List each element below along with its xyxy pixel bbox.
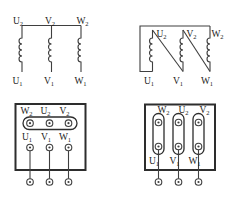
phase-coil-w	[78, 26, 81, 73]
label-u1: U1	[12, 76, 22, 87]
terminal-dot	[67, 146, 69, 148]
label-u1: U1	[144, 76, 154, 87]
label-w1: W1	[74, 76, 86, 87]
label-w2: W2	[211, 29, 223, 40]
label-w2: W2	[20, 106, 32, 117]
label-u2: U2	[156, 29, 166, 40]
phase-coil-v	[49, 26, 52, 73]
terminal-dot	[197, 145, 199, 147]
label-u1: U1	[22, 132, 32, 143]
label-v2: V2	[59, 106, 69, 117]
label-v1: V1	[44, 76, 54, 87]
winding-diagrams-svg: U2 V2 W2 U1 V1 W1 U2 V2 W2 U1 V1 W1	[0, 0, 234, 201]
label-v1: V1	[173, 76, 183, 87]
delta-connection-terminal-board: W2 U2 V2 U1 V1 W1	[145, 105, 215, 186]
terminal-dot	[177, 181, 179, 183]
label-w2: W2	[157, 105, 169, 116]
terminal-dot	[157, 145, 159, 147]
terminal-dot	[67, 122, 69, 124]
terminal-dot	[67, 181, 69, 183]
phase-coil-v	[180, 30, 183, 72]
terminal-dot	[48, 146, 50, 148]
label-w1: W1	[201, 76, 213, 87]
star-connection-terminal-board: W2 U2 V2 U1 V1 W1	[16, 104, 86, 185]
label-u2: U2	[13, 16, 23, 27]
terminal-dot	[29, 181, 31, 183]
terminal-dot	[157, 121, 159, 123]
terminal-dot	[177, 121, 179, 123]
terminal-dot	[197, 181, 199, 183]
label-u2: U2	[40, 106, 50, 117]
terminal-dot	[29, 122, 31, 124]
label-v1: V1	[41, 132, 51, 143]
phase-coil-u	[19, 26, 22, 73]
label-u2: U2	[178, 105, 188, 116]
delta-winding-schematic: U2 V2 W2 U1 V1 W1	[140, 26, 224, 87]
terminal-dot	[48, 122, 50, 124]
terminal-dot	[29, 146, 31, 148]
terminal-dot	[177, 145, 179, 147]
terminal-dot	[48, 181, 50, 183]
phase-coil-w	[207, 26, 210, 72]
label-u1: U1	[149, 156, 159, 167]
star-winding-schematic: U2 V2 W2 U1 V1 W1	[12, 16, 88, 87]
phase-coil-u	[150, 30, 153, 72]
label-w2: W2	[76, 16, 88, 27]
motor-winding-connection-figure: U2 V2 W2 U1 V1 W1 U2 V2 W2 U1 V1 W1	[0, 0, 234, 201]
label-w1: W1	[59, 132, 71, 143]
terminal-dot	[157, 181, 159, 183]
label-v2: V2	[45, 16, 55, 27]
terminal-dot	[197, 121, 199, 123]
label-v2: V2	[186, 29, 196, 40]
label-v2: V2	[199, 105, 209, 116]
